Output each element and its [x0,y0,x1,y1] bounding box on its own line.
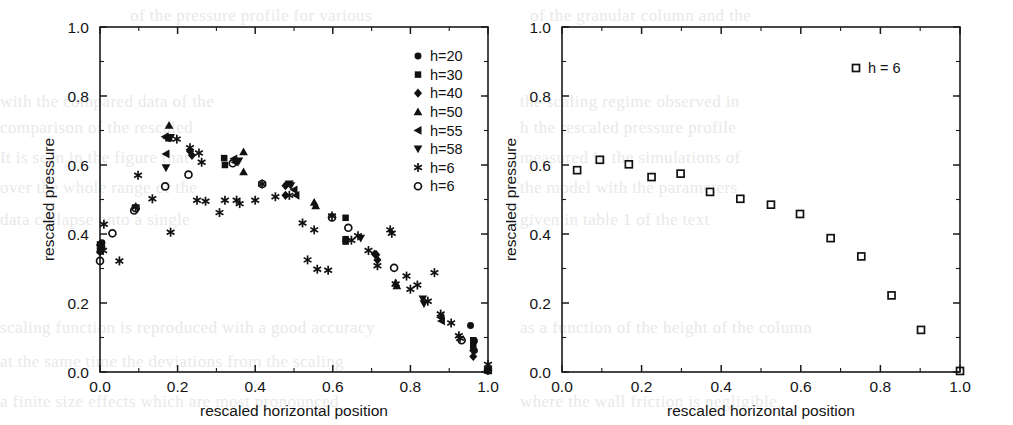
x-axis-title: rescaled horizontal position [200,402,388,419]
data-marker-asterisk [116,256,124,265]
data-marker-filled-triangle-left [414,126,422,135]
data-marker-filled-square [342,215,348,221]
y-axis-title: rescaled pressure [40,138,57,261]
y-axis-title: rescaled pressure [506,138,519,261]
data-marker-asterisk [272,192,280,201]
data-marker-filled-square [470,337,476,343]
x-tick-label: 0.4 [710,378,732,395]
data-marker-filled-circle [467,322,474,329]
data-marker-open-square [625,161,632,168]
legend-label: h=30 [430,67,463,83]
x-tick-label: 0.8 [870,378,892,395]
data-marker-open-square [574,167,581,174]
series-h6-0 [574,156,964,374]
data-marker-open-circle [109,230,116,237]
legend-label: h=6 [430,160,455,176]
data-marker-asterisk [221,196,229,205]
legend-label: h=40 [430,85,463,101]
x-tick-label: 0.0 [89,378,111,395]
data-marker-asterisk [134,171,142,180]
data-marker-asterisk [251,196,259,205]
data-points-group [574,156,964,374]
data-marker-open-square [648,174,655,181]
data-marker-open-circle [345,224,352,231]
data-marker-asterisk [198,158,206,167]
plot-frame [562,27,960,372]
data-marker-asterisk [431,268,439,277]
series-h20-0 [98,239,491,374]
data-marker-asterisk [304,255,312,264]
legend-label: h=20 [430,48,463,64]
data-marker-open-square [827,235,834,242]
scatter-plot-left: 0.00.20.40.60.81.00.00.20.40.60.81.0resc… [0,0,506,425]
y-tick-label: 0.6 [529,157,551,174]
data-marker-filled-triangle-down [414,146,423,154]
x-tick-label: 0.2 [631,378,653,395]
data-marker-open-circle [391,264,398,271]
data-marker-asterisk [324,266,332,275]
data-marker-filled-circle [415,53,422,60]
data-marker-asterisk [299,218,307,227]
y-tick-label: 0.6 [67,157,89,174]
legend-label: h=55 [430,123,463,139]
data-marker-asterisk [195,148,203,157]
data-marker-open-square [888,292,895,299]
chart-panel-left: 0.00.20.40.60.81.00.00.20.40.60.81.0resc… [0,0,506,425]
x-tick-label: 1.0 [477,378,499,395]
data-marker-filled-triangle-up [165,121,174,129]
legend-label: h=6 [430,178,455,194]
data-marker-open-square [797,211,804,218]
data-marker-asterisk [403,272,411,281]
data-marker-open-square [737,195,744,202]
data-marker-asterisk [407,285,415,294]
data-marker-filled-triangle-down [162,164,171,172]
data-marker-filled-square [222,162,228,168]
legend: h=20h=30h=40h=50h=55h=58h=6h=6 [414,48,463,194]
data-marker-open-square [767,201,774,208]
data-marker-filled-triangle-up [239,168,248,176]
data-marker-asterisk [193,196,201,205]
y-tick-label: 1.0 [529,19,551,36]
scatter-plot-right: 0.00.20.40.60.81.00.00.20.40.60.81.0resc… [506,0,1013,425]
data-marker-asterisk [374,261,382,270]
x-tick-label: 0.6 [790,378,812,395]
x-axis-title: rescaled horizontal position [667,402,855,419]
data-marker-open-circle [162,183,169,190]
data-marker-filled-triangle-up [239,148,248,156]
legend-label: h=50 [430,104,463,120]
x-tick-label: 0.0 [551,378,573,395]
data-marker-asterisk [414,281,422,290]
data-marker-open-square [918,326,925,333]
y-tick-label: 0.2 [529,295,551,312]
legend-label: h = 6 [868,60,901,76]
data-marker-open-square [707,188,714,195]
data-marker-filled-square [221,155,227,161]
y-tick-label: 0.8 [529,88,551,105]
data-marker-asterisk [310,225,318,234]
x-tick-label: 0.4 [244,378,266,395]
data-marker-asterisk [313,265,321,274]
data-marker-asterisk [167,228,175,237]
data-marker-filled-diamond [414,89,422,98]
data-marker-asterisk [173,135,181,144]
y-tick-label: 0.8 [67,88,89,105]
data-marker-asterisk [149,194,157,203]
x-tick-label: 1.0 [949,378,971,395]
legend-label: h=58 [430,141,463,157]
data-marker-open-square [596,156,603,163]
data-marker-open-square [853,65,860,72]
data-marker-filled-square [415,71,421,77]
chart-panel-right: 0.00.20.40.60.81.00.00.20.40.60.81.0resc… [506,0,1013,425]
data-marker-open-circle [185,171,192,178]
data-marker-open-square [677,170,684,177]
data-marker-asterisk [202,197,210,206]
legend: h = 6 [853,60,901,76]
figure-container: 0.00.20.40.60.81.00.00.20.40.60.81.0resc… [0,0,1013,425]
y-tick-label: 0.2 [67,295,89,312]
data-marker-asterisk [100,220,108,229]
data-marker-filled-triangle-up [414,107,423,115]
data-marker-open-square [858,253,865,260]
y-tick-label: 0.0 [529,364,551,381]
y-tick-label: 1.0 [67,19,89,36]
y-tick-label: 0.0 [67,364,89,381]
